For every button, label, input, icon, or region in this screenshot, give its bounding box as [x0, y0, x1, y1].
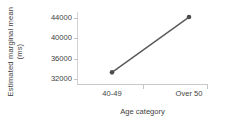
- y-axis-title: Estimated marginal mean (ms): [0, 0, 32, 104]
- x-axis-tick-label: Over 50: [175, 90, 202, 98]
- x-axis-tick: [143, 85, 144, 89]
- y-axis-tick-label: 44000: [51, 14, 72, 22]
- data-point-marker: [187, 15, 192, 20]
- series-layer: [77, 12, 208, 84]
- x-axis-tick-label: 40-49: [102, 90, 121, 98]
- y-axis-tick-label: 40000: [51, 34, 72, 42]
- y-axis-title-text: Estimated marginal mean (ms): [7, 7, 24, 97]
- series-line: [112, 17, 189, 72]
- line-chart-figure: Estimated marginal mean (ms) 32000360004…: [0, 0, 235, 127]
- y-axis-tick-label: 36000: [51, 55, 72, 63]
- y-axis-title-unit: (ms): [16, 7, 25, 97]
- data-point-marker: [110, 70, 115, 75]
- y-axis-tick-label: 32000: [51, 75, 72, 83]
- x-axis-tick: [207, 85, 208, 89]
- x-axis-title: Age category: [77, 108, 208, 116]
- plot-area: 32000360004000044000: [77, 12, 208, 84]
